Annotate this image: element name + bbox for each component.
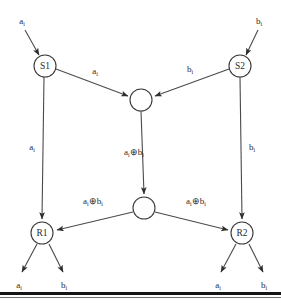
label-s1-to-r1: ai xyxy=(29,142,35,153)
network-diagram-canvas: S1 S2 R1 R2 ai bi ai bi ai bi xyxy=(0,0,281,305)
edge-relay-bottom-to-r2 xyxy=(155,212,228,230)
label-s2-to-relay-top: bi xyxy=(187,64,194,75)
edge-r2-output-a xyxy=(221,244,236,272)
label-s1-input: ai xyxy=(19,16,25,27)
edge-s2-to-r2 xyxy=(240,77,242,219)
label-relay-bottom-to-r1: ai⊕bi xyxy=(83,196,103,207)
network-coding-diagram: S1 S2 R1 R2 ai bi ai bi ai bi xyxy=(0,0,281,305)
label-r2-output-b: bi xyxy=(261,280,268,291)
edge-input-to-s2 xyxy=(246,30,258,55)
edge-s1-to-r1 xyxy=(42,77,44,219)
label-s1-to-relay-top: ai xyxy=(92,66,98,77)
node-s1-label: S1 xyxy=(40,61,50,71)
label-r1-output-b: bi xyxy=(61,280,68,291)
node-r2-label: R2 xyxy=(236,228,247,238)
label-r2-output-a: ai xyxy=(215,280,221,291)
edge-r1-output-a xyxy=(22,244,37,272)
label-relay-top-to-relay-bottom: ai⊕bi xyxy=(124,147,144,158)
edge-r2-output-b xyxy=(249,244,263,272)
label-s2-to-r2: bi xyxy=(249,142,256,153)
page-bottom-rule-secondary xyxy=(0,297,281,298)
edge-r1-output-b xyxy=(49,244,63,272)
node-relay-bottom[interactable] xyxy=(133,197,155,219)
label-relay-bottom-to-r2: ai⊕bi xyxy=(186,196,206,207)
label-r1-output-a: ai xyxy=(16,280,22,291)
node-relay-top[interactable] xyxy=(130,89,152,111)
node-s2-label: S2 xyxy=(235,61,245,71)
node-r1-label: R1 xyxy=(36,228,47,238)
edge-input-to-s1 xyxy=(25,30,39,55)
edge-relay-bottom-to-r1 xyxy=(57,212,133,230)
label-s2-input: bi xyxy=(256,16,263,27)
page-bottom-rule xyxy=(0,292,281,295)
